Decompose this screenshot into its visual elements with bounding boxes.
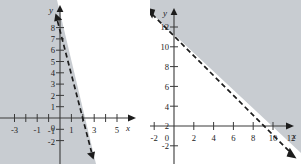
y-tick-label: 4 <box>165 102 170 112</box>
two-panel-inequality-figure: -3 -1 1 3 5 0 8 7 6 5 4 3 2 1 -1 -2 <box>0 0 301 164</box>
shaded-region-right <box>150 0 301 153</box>
x-tick-label: 6 <box>231 133 236 143</box>
x-tick-label: 5 <box>115 125 119 135</box>
x-tick-label: 2 <box>192 133 196 143</box>
x-tick-label: 1 <box>69 125 73 135</box>
x-tick-label: 3 <box>92 125 96 135</box>
chart-panel-left: -3 -1 1 3 5 0 8 7 6 5 4 3 2 1 -1 -2 <box>0 0 150 164</box>
x-tick-label: 10 <box>269 133 278 143</box>
y-tick-label: 6 <box>51 45 56 55</box>
y-tick-label: 5 <box>51 57 55 67</box>
x-tick-label: 8 <box>251 133 255 143</box>
y-tick-label: 3 <box>51 79 55 89</box>
y-tick-label: 7 <box>51 34 56 44</box>
x-axis-arrow-icon <box>128 115 136 122</box>
chart-panel-right: -2 2 4 6 8 10 12 0 12 10 8 6 4 2 -2 x <box>150 0 301 164</box>
y-tick-label: 2 <box>165 121 169 131</box>
right-graph-svg: -2 2 4 6 8 10 12 0 12 10 8 6 4 2 -2 x <box>150 0 301 164</box>
x-tick-label: -2 <box>151 133 158 143</box>
y-tick-label: 1 <box>51 102 55 112</box>
x-tick-label: 4 <box>211 133 216 143</box>
x-tick-label: -3 <box>11 125 18 135</box>
x-axis-label-right: x <box>291 131 296 141</box>
y-tick-label: -2 <box>162 141 169 151</box>
y-tick-label: 12 <box>160 22 169 32</box>
x-tick-label: -1 <box>34 125 41 135</box>
y-axis-label-left: y <box>48 5 53 15</box>
y-tick-label: 10 <box>160 42 169 52</box>
left-graph-svg: -3 -1 1 3 5 0 8 7 6 5 4 3 2 1 -1 -2 <box>0 0 150 164</box>
y-tick-label: 8 <box>165 62 169 72</box>
y-tick-label: 2 <box>51 91 55 101</box>
y-tick-label: 8 <box>51 23 55 33</box>
y-tick-labels-right: 12 10 8 6 4 2 -2 <box>160 22 169 151</box>
x-tick-labels-right: -2 2 4 6 8 10 12 <box>151 133 296 143</box>
y-tick-label: 4 <box>51 68 56 78</box>
x-axis-label-left: x <box>125 123 130 133</box>
y-tick-label: -2 <box>48 137 55 147</box>
y-tick-label: 6 <box>165 82 170 92</box>
y-tick-label: -1 <box>48 126 55 136</box>
y-axis-label-right: y <box>162 8 167 18</box>
